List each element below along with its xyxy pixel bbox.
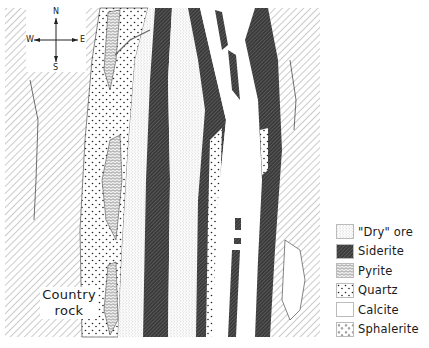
- siderite-block-1: [235, 218, 241, 230]
- siderite-block-2: [234, 238, 241, 244]
- legend-item-dry-ore: "Dry" ore: [336, 222, 429, 242]
- sphalerite-swatch-icon: [336, 322, 354, 337]
- compass-rose: N S W E: [26, 8, 86, 72]
- calcite-swatch-icon: [336, 302, 354, 317]
- compass-north-label: N: [53, 8, 59, 16]
- legend: "Dry" ore Siderite Pyrite Quartz Calcite…: [336, 222, 429, 339]
- legend-item-siderite: Siderite: [336, 242, 429, 262]
- country-rock-label-line1: Country: [40, 287, 98, 303]
- pyrite-swatch-icon: [336, 263, 354, 278]
- siderite-swatch-icon: [336, 244, 354, 259]
- compass-west-label: W: [26, 36, 34, 44]
- dry-ore-swatch-icon: [336, 224, 354, 239]
- legend-item-pyrite: Pyrite: [336, 261, 429, 281]
- quartz-swatch-icon: [336, 283, 354, 298]
- country-rock-label-line2: rock: [40, 303, 98, 319]
- country-rock-label: Country rock: [40, 287, 98, 319]
- legend-item-quartz: Quartz: [336, 281, 429, 301]
- compass-east-label: E: [80, 36, 85, 44]
- quartz-lens-east: [260, 128, 268, 175]
- legend-item-calcite: Calcite: [336, 300, 429, 320]
- compass-south-label: S: [53, 64, 58, 72]
- legend-item-sphalerite: Sphalerite: [336, 320, 429, 340]
